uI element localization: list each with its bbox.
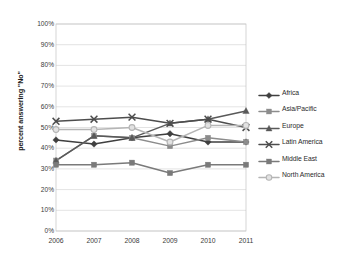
data-point-circle	[167, 139, 173, 145]
legend-marker-square-icon	[258, 153, 280, 164]
data-point-circle	[266, 175, 272, 181]
legend-item-label: Latin America	[282, 137, 323, 146]
plot-area	[56, 24, 246, 231]
data-point-circle	[53, 127, 59, 133]
y-tick-label: 10%	[28, 206, 54, 214]
series-line-middle-east	[56, 163, 246, 173]
x-tick-label: 2009	[150, 236, 190, 246]
y-tick-label: 60%	[28, 103, 54, 111]
legend-item-label: Africa	[282, 88, 299, 97]
data-point-diamond	[91, 141, 97, 147]
x-tick-label: 2010	[188, 236, 228, 246]
y-tick-label: 70%	[28, 82, 54, 90]
x-tick-label: 2006	[36, 236, 76, 246]
data-point-square	[205, 162, 210, 167]
data-point-diamond	[266, 92, 272, 98]
y-tick-label: 0%	[28, 227, 54, 235]
data-point-square	[243, 139, 248, 144]
x-tick-label: 2008	[112, 236, 152, 246]
legend-marker-circle-icon	[258, 169, 280, 180]
y-axis-tick-labels: 100%90%80%70%60%50%40%30%20%10%0%	[26, 0, 54, 262]
data-point-square	[243, 162, 248, 167]
x-tick-label: 2011	[226, 236, 266, 246]
y-tick-label: 40%	[28, 144, 54, 152]
legend-marker-diamond-icon	[258, 87, 280, 98]
data-point-square	[167, 170, 172, 175]
data-point-square	[267, 109, 272, 114]
plot-svg	[56, 24, 246, 231]
y-tick-label: 90%	[28, 41, 54, 49]
y-tick-label: 20%	[28, 186, 54, 194]
data-point-circle	[129, 125, 135, 131]
x-axis-tick-labels: 200620072008200920102011	[56, 236, 246, 250]
line-chart: percent answering "No" 100%90%80%70%60%5…	[0, 0, 354, 262]
x-tick-label: 2007	[74, 236, 114, 246]
chart-legend: AfricaAsia/PacificEuropeLatin AmericaMid…	[258, 86, 352, 186]
data-point-square	[205, 135, 210, 140]
data-point-circle	[243, 123, 249, 129]
y-tick-label: 30%	[28, 165, 54, 173]
legend-item-label: Asia/Pacific	[282, 104, 317, 113]
legend-marker-triangle-icon	[258, 120, 280, 131]
legend-item-europe[interactable]: Europe	[258, 119, 304, 131]
legend-item-middle-east[interactable]: Middle East	[258, 152, 317, 164]
legend-item-latin-america[interactable]: Latin America	[258, 136, 323, 148]
data-point-square	[267, 159, 272, 164]
y-tick-label: 50%	[28, 124, 54, 132]
data-point-square	[91, 162, 96, 167]
legend-item-label: Europe	[282, 121, 304, 130]
data-point-circle	[91, 127, 97, 133]
legend-item-africa[interactable]: Africa	[258, 86, 299, 98]
data-point-circle	[205, 123, 211, 129]
legend-marker-square-icon	[258, 103, 280, 114]
data-point-square	[129, 160, 134, 165]
legend-item-asia-pacific[interactable]: Asia/Pacific	[258, 103, 317, 115]
data-point-diamond	[167, 131, 173, 137]
legend-marker-cross-icon	[258, 136, 280, 147]
y-tick-label: 80%	[28, 61, 54, 69]
y-tick-label: 100%	[28, 20, 54, 28]
legend-item-north-america[interactable]: North America	[258, 169, 324, 181]
data-point-triangle	[243, 108, 249, 114]
legend-item-label: North America	[282, 170, 324, 179]
legend-item-label: Middle East	[282, 154, 317, 163]
data-point-square	[53, 162, 58, 167]
